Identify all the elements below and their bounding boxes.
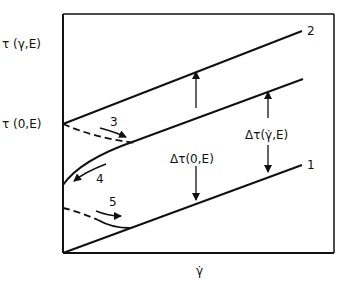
curve-label-5: 5 xyxy=(109,195,117,209)
curve-5-solid xyxy=(98,220,130,228)
curve-label-2: 2 xyxy=(307,24,315,38)
curve-label-1: 1 xyxy=(307,158,315,172)
plot-frame xyxy=(63,14,334,253)
diagram-canvas xyxy=(0,0,346,299)
y-label-mid: τ (0,E) xyxy=(2,117,41,131)
arrow-3-icon xyxy=(100,128,126,137)
delta-rate-label: Δτ(γ̇,E) xyxy=(245,128,288,142)
arrow-5-icon xyxy=(96,211,121,216)
curve-3-dashed xyxy=(63,124,136,143)
y-label-top: τ (γ,E) xyxy=(2,37,41,51)
x-label: γ̇ xyxy=(196,264,203,278)
curve-label-3: 3 xyxy=(110,115,118,129)
curve-2 xyxy=(63,31,302,124)
curve-label-4: 4 xyxy=(96,172,104,186)
delta-zero-label: Δτ(0,E) xyxy=(170,152,214,166)
curve-5-dashed xyxy=(63,208,98,220)
